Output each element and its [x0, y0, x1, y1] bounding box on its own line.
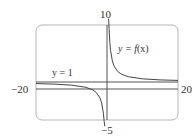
y-max-label: 10 — [100, 9, 111, 20]
curve-label-prefix: y = — [118, 43, 134, 54]
x-max-label: 20 — [181, 84, 192, 95]
curve-label-arg: (x) — [137, 43, 149, 54]
curve-label: y = f(x) — [118, 44, 149, 54]
x-min-label: −20 — [11, 84, 28, 95]
chart-canvas — [0, 0, 195, 140]
asymptote-label: y = 1 — [52, 68, 73, 78]
y-min-label: −5 — [101, 125, 113, 136]
